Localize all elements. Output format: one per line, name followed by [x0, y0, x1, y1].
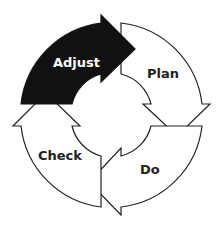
pdca-cycle-diagram: Plan Do Check Adjust: [0, 0, 223, 228]
check-label: Check: [38, 148, 82, 163]
cycle-arrows: [0, 0, 223, 228]
plan-label: Plan: [147, 66, 179, 81]
adjust-label: Adjust: [53, 55, 100, 70]
do-label: Do: [140, 162, 160, 177]
